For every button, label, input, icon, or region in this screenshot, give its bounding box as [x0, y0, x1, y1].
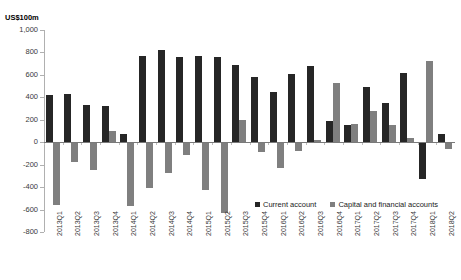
bar [351, 124, 358, 143]
bar [400, 73, 407, 143]
x-axis-tick-label: 2015Q1 [205, 211, 212, 236]
y-axis-tick [40, 97, 44, 98]
bar [214, 57, 221, 142]
x-axis-tick-label: 2013Q4 [112, 211, 119, 236]
y-axis-tick-label: 1,000 [0, 25, 38, 34]
y-axis-tick [40, 120, 44, 121]
bar [202, 142, 209, 190]
legend-swatch-icon [330, 202, 335, 207]
x-axis-tick-label: 2017Q1 [354, 211, 361, 236]
bar [109, 131, 116, 142]
x-axis-tick-label: 2014Q3 [168, 211, 175, 236]
y-axis-tick [40, 187, 44, 188]
bar [333, 83, 340, 142]
bar [53, 142, 60, 205]
y-axis-tick [40, 30, 44, 31]
bar [195, 56, 202, 142]
bar [382, 103, 389, 142]
y-axis-tick-label: 400 [0, 92, 38, 101]
bar [64, 94, 71, 142]
x-axis-tick-label: 2013Q3 [93, 211, 100, 236]
legend-item-current-account: Current account [255, 200, 316, 209]
bar [183, 142, 190, 154]
x-axis-tick-label: 2014Q4 [186, 211, 193, 236]
zero-baseline [44, 142, 455, 143]
bar [83, 105, 90, 142]
chart-legend: Current account Capital and financial ac… [255, 200, 438, 209]
x-axis-tick-label: 2014Q1 [130, 211, 137, 236]
bar [176, 57, 183, 142]
x-axis-tick-label: 2017Q3 [392, 211, 399, 236]
x-axis-tick-label: 2016Q2 [298, 211, 305, 236]
legend-label: Current account [263, 200, 316, 209]
y-axis-tick-label: -400 [0, 182, 38, 191]
bar [389, 125, 396, 142]
bar [221, 142, 228, 213]
bar [270, 92, 277, 143]
x-axis-tick-label: 2018Q1 [429, 211, 436, 236]
bar [295, 142, 302, 151]
bar [277, 142, 284, 168]
x-axis-tick-label: 2016Q1 [280, 211, 287, 236]
y-axis-tick [40, 52, 44, 53]
bar [102, 106, 109, 142]
x-axis-tick-label: 2015Q4 [261, 211, 268, 236]
y-axis-tick-label: 0 [0, 137, 38, 146]
bar [139, 56, 146, 142]
bar [165, 142, 172, 172]
bar [288, 74, 295, 142]
bar [370, 111, 377, 142]
y-axis-tick-label: -600 [0, 205, 38, 214]
y-axis-tick [40, 210, 44, 211]
y-axis-tick-label: 200 [0, 115, 38, 124]
y-axis-tick [40, 232, 44, 233]
x-axis-tick-label: 2016Q3 [317, 211, 324, 236]
y-axis-tick-label: -200 [0, 160, 38, 169]
y-axis-tick [40, 165, 44, 166]
bar [426, 61, 433, 142]
bar [363, 87, 370, 142]
bar [120, 134, 127, 142]
x-axis-tick-label: 2018Q2 [448, 211, 455, 236]
bar [146, 142, 153, 188]
bar [158, 50, 165, 142]
x-axis-tick-label: 2017Q4 [410, 211, 417, 236]
bar [251, 77, 258, 142]
x-axis-tick-label: 2015Q2 [224, 211, 231, 236]
legend-label: Capital and financial accounts [338, 200, 438, 209]
y-axis-tick [40, 75, 44, 76]
y-axis-unit-label: US$100m [5, 13, 39, 22]
bar [438, 134, 445, 142]
bar [232, 65, 239, 142]
bar [326, 121, 333, 142]
bar [344, 125, 351, 142]
y-axis-tick-label: 600 [0, 70, 38, 79]
bar [46, 95, 53, 142]
x-axis-tick-label: 2016Q4 [336, 211, 343, 236]
bar [127, 142, 134, 206]
bar [419, 142, 426, 179]
bar-chart: US$100m 1,0008006004002000-200-400-600-8… [0, 0, 461, 280]
bar [90, 142, 97, 170]
legend-swatch-icon [255, 202, 260, 207]
x-axis-tick-label: 2013Q2 [74, 211, 81, 236]
y-axis-tick-label: 800 [0, 47, 38, 56]
bar [239, 120, 246, 142]
y-axis-tick-label: -800 [0, 227, 38, 236]
legend-item-capital-financial-accounts: Capital and financial accounts [330, 200, 438, 209]
bar [258, 142, 265, 152]
x-axis-tick-label: 2017Q2 [373, 211, 380, 236]
x-axis-tick-label: 2013Q1 [56, 211, 63, 236]
x-axis-tick-label: 2014Q2 [149, 211, 156, 236]
bar [445, 142, 452, 149]
bar [307, 66, 314, 142]
bar [71, 142, 78, 162]
x-axis-tick-label: 2015Q3 [242, 211, 249, 236]
